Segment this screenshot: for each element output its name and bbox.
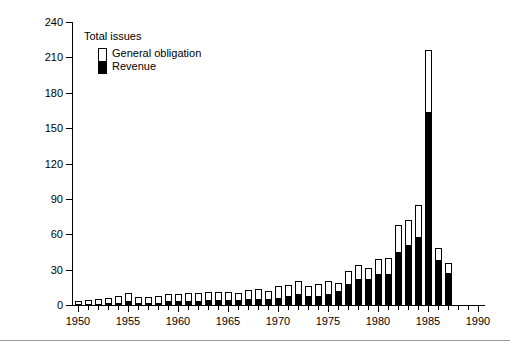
chart-legend: Total issues General obligation Revenue [84, 30, 201, 73]
y-axis-title: Billions of Dollars [6, 0, 22, 50]
footer-divider [0, 340, 510, 341]
y-tick-240: 240 [66, 22, 72, 23]
bar-revenue-segment-1961 [186, 301, 191, 304]
x-tick-1965 [228, 306, 229, 312]
x-tick-minor-1954 [118, 306, 119, 310]
bar-1966 [235, 293, 242, 305]
x-tick-minor-1977 [348, 306, 349, 310]
bar-revenue-segment-1953 [106, 303, 111, 304]
bar-revenue-segment-1967 [246, 299, 251, 304]
y-tick-label-30: 30 [51, 262, 63, 278]
x-tick-minor-1971 [288, 306, 289, 310]
x-tick-minor-1973 [308, 306, 309, 310]
x-tick-minor-1964 [218, 306, 219, 310]
bar-1959 [165, 294, 172, 305]
bar-1972 [295, 281, 302, 305]
x-tick-minor-1963 [208, 306, 209, 310]
x-tick-minor-1962 [198, 306, 199, 310]
bar-1953 [105, 298, 112, 305]
x-tick-1985 [428, 306, 429, 312]
bar-revenue-segment-1980 [376, 274, 381, 304]
x-tick-minor-1987 [448, 306, 449, 310]
x-tick-minor-1981 [388, 306, 389, 310]
bar-1978 [355, 265, 362, 305]
chart-figure: Billions of Dollars 03060901201501802102… [0, 0, 510, 346]
bar-1963 [205, 292, 212, 305]
bar-1952 [95, 299, 102, 305]
x-tick-minor-1986 [438, 306, 439, 310]
bar-1950 [75, 301, 82, 305]
x-tick-label-1975: 1975 [308, 314, 348, 328]
x-tick-minor-1974 [318, 306, 319, 310]
x-tick-minor-1957 [148, 306, 149, 310]
bar-1968 [255, 289, 262, 306]
bar-1956 [135, 297, 142, 305]
x-tick-minor-1989 [468, 306, 469, 310]
bar-revenue-segment-1983 [406, 245, 411, 304]
bar-1984 [415, 205, 422, 305]
bar-1971 [285, 285, 292, 305]
bar-revenue-segment-1986 [436, 260, 441, 304]
bar-revenue-segment-1978 [356, 279, 361, 304]
bar-revenue-segment-1984 [416, 237, 421, 304]
bar-revenue-segment-1962 [196, 301, 201, 304]
x-tick-minor-1982 [398, 306, 399, 310]
y-tick-label-0: 0 [57, 297, 63, 313]
legend-title: Total issues [84, 30, 201, 43]
bar-revenue-segment-1957 [146, 303, 151, 304]
bar-1976 [335, 283, 342, 305]
bar-revenue-segment-1958 [156, 303, 161, 304]
bar-revenue-segment-1964 [216, 300, 221, 304]
x-tick-label-1965: 1965 [208, 314, 248, 328]
y-tick-210: 210 [66, 57, 72, 58]
y-tick-120: 120 [66, 164, 72, 165]
bar-revenue-segment-1970 [276, 298, 281, 304]
bar-revenue-segment-1977 [346, 284, 351, 304]
bar-revenue-segment-1985 [426, 112, 431, 304]
bar-1965 [225, 292, 232, 305]
x-tick-minor-1984 [418, 306, 419, 310]
bar-1970 [275, 286, 282, 305]
bar-1975 [325, 281, 332, 305]
bar-revenue-segment-1966 [236, 300, 241, 304]
bar-revenue-segment-1972 [296, 294, 301, 304]
bar-1955 [125, 293, 132, 305]
bar-1957 [145, 297, 152, 305]
y-tick-label-240: 240 [45, 14, 63, 30]
legend-body: General obligation Revenue [84, 47, 201, 73]
bar-1962 [195, 293, 202, 305]
x-tick-1975 [328, 306, 329, 312]
bar-1977 [345, 271, 352, 305]
x-tick-label-1955: 1955 [108, 314, 148, 328]
x-tick-label-1960: 1960 [158, 314, 198, 328]
y-tick-180: 180 [66, 93, 72, 94]
bar-revenue-segment-1968 [256, 299, 261, 304]
y-tick-label-210: 210 [45, 49, 63, 65]
bar-1987 [445, 263, 452, 305]
y-tick-90: 90 [66, 199, 72, 200]
x-tick-minor-1972 [298, 306, 299, 310]
y-tick-150: 150 [66, 128, 72, 129]
x-tick-label-1985: 1985 [408, 314, 448, 328]
x-tick-minor-1966 [238, 306, 239, 310]
bar-revenue-segment-1982 [396, 252, 401, 304]
bar-1961 [185, 293, 192, 305]
x-tick-minor-1983 [408, 306, 409, 310]
y-tick-label-120: 120 [45, 156, 63, 172]
bar-revenue-segment-1959 [166, 301, 171, 304]
x-tick-label-1980: 1980 [358, 314, 398, 328]
bar-revenue-segment-1974 [316, 296, 321, 304]
x-tick-minor-1979 [368, 306, 369, 310]
y-tick-label-150: 150 [45, 120, 63, 136]
y-tick-30: 30 [66, 270, 72, 271]
bar-revenue-segment-1965 [226, 300, 231, 304]
x-tick-minor-1951 [88, 306, 89, 310]
y-tick-60: 60 [66, 234, 72, 235]
x-tick-label-1950: 1950 [58, 314, 98, 328]
x-tick-minor-1968 [258, 306, 259, 310]
bar-revenue-segment-1987 [446, 273, 451, 304]
bar-1964 [215, 292, 222, 305]
x-tick-minor-1976 [338, 306, 339, 310]
x-tick-minor-1956 [138, 306, 139, 310]
bar-revenue-segment-1954 [116, 303, 121, 304]
